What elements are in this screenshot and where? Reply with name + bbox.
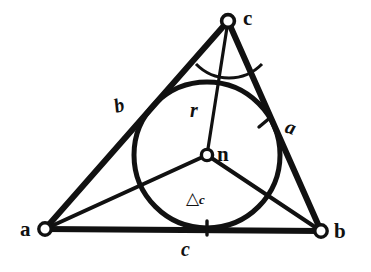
triangle-symbol-icon: △ [186, 188, 199, 208]
vertex-marker-a [39, 223, 51, 235]
side-ab [45, 229, 321, 231]
incircle-figure: a b c n b a c r △c [0, 0, 371, 272]
area-label-delta-c: △c [186, 190, 205, 207]
bisector-from-a [45, 155, 207, 229]
side-label-c: c [181, 239, 190, 259]
vertex-label-c: c [243, 8, 252, 29]
figure-canvas [0, 0, 371, 272]
incenter-marker-n [201, 149, 212, 160]
vertex-marker-b [315, 225, 327, 237]
incenter-label-n: n [217, 144, 229, 165]
tangent-tick-side-a [259, 117, 271, 127]
vertex-label-a: a [20, 219, 31, 240]
radius-label-r: r [190, 100, 198, 120]
area-label-subscript: c [199, 192, 205, 207]
vertex-marker-c [222, 15, 235, 28]
vertex-label-b: b [334, 221, 346, 242]
